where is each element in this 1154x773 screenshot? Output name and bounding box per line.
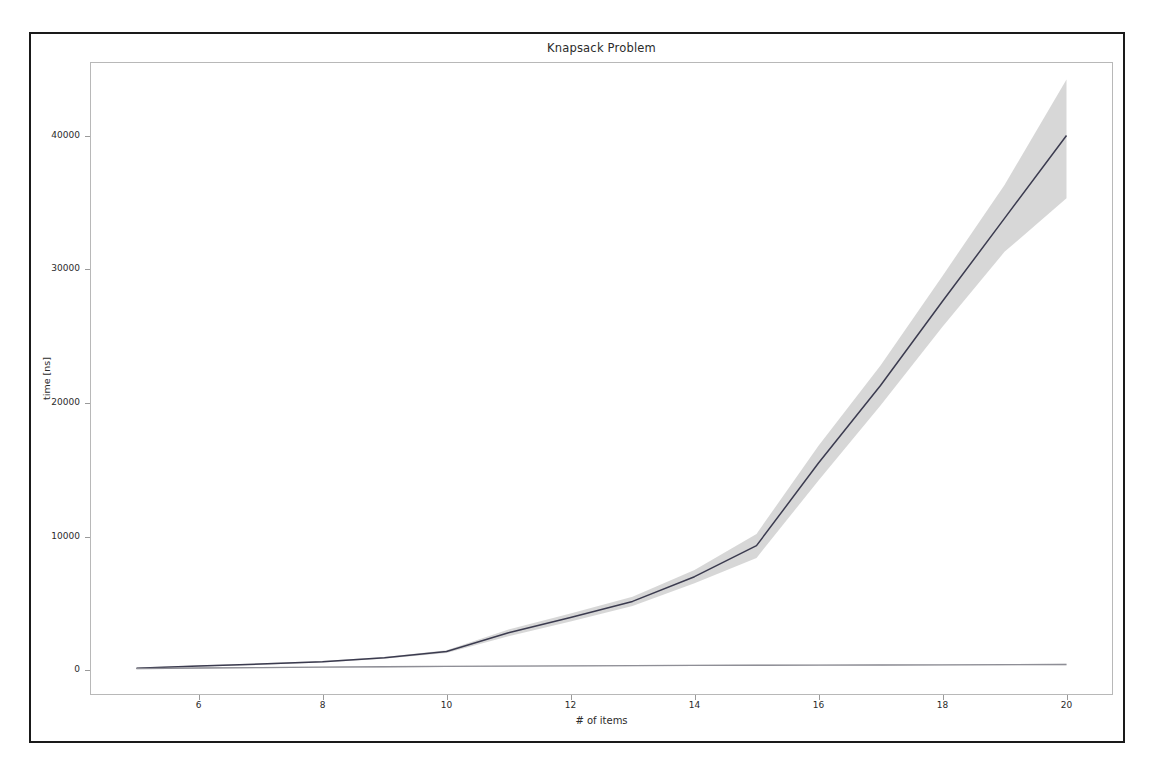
y-tick-mark [85, 136, 90, 137]
confidence-band-0 [137, 79, 1067, 668]
x-axis-label: # of items [90, 715, 1113, 726]
y-tick-label: 10000 [22, 531, 80, 541]
x-tick-mark [571, 695, 572, 700]
x-tick-label: 16 [799, 700, 839, 710]
series-lines [137, 136, 1067, 669]
line-series-1 [137, 665, 1067, 669]
y-tick-label: 20000 [22, 397, 80, 407]
x-tick-label: 8 [303, 700, 343, 710]
line-series-0 [137, 136, 1067, 669]
x-tick-mark [695, 695, 696, 700]
y-tick-mark [85, 269, 90, 270]
x-tick-mark [943, 695, 944, 700]
x-tick-label: 12 [551, 700, 591, 710]
x-tick-mark [199, 695, 200, 700]
y-axis-label: time [ns] [41, 319, 52, 439]
y-tick-mark [85, 537, 90, 538]
y-tick-label: 30000 [22, 263, 80, 273]
x-tick-label: 10 [427, 700, 467, 710]
x-tick-mark [819, 695, 820, 700]
y-tick-mark [85, 403, 90, 404]
confidence-bands [137, 79, 1067, 669]
x-tick-mark [447, 695, 448, 700]
y-tick-mark [85, 670, 90, 671]
x-tick-mark [1067, 695, 1068, 700]
x-tick-label: 18 [923, 700, 963, 710]
y-tick-label: 40000 [22, 130, 80, 140]
chart-title: Knapsack Problem [90, 41, 1113, 55]
x-tick-label: 6 [179, 700, 219, 710]
x-tick-label: 14 [675, 700, 715, 710]
plot-area [90, 62, 1113, 695]
y-tick-label: 0 [22, 664, 80, 674]
x-tick-label: 20 [1047, 700, 1087, 710]
x-tick-mark [323, 695, 324, 700]
chart-page: Knapsack Problem time [ns] # of items 01… [0, 0, 1154, 773]
